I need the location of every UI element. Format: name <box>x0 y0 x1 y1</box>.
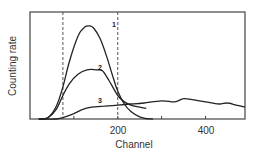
curve-3 <box>39 99 245 120</box>
curve-3-label: 3 <box>98 97 102 104</box>
y-axis-label: Counting rate <box>7 36 18 96</box>
curve-2-label: 2 <box>98 64 102 71</box>
curves <box>39 26 245 119</box>
curve-1-label: 1 <box>112 21 116 28</box>
x-tick-label-200: 200 <box>110 125 127 136</box>
chart: 1 2 3 200 400 Channel Counting rate <box>0 0 258 153</box>
curve-1 <box>39 26 153 119</box>
x-axis-label: Channel <box>115 139 152 150</box>
x-tick-label-400: 400 <box>198 125 215 136</box>
